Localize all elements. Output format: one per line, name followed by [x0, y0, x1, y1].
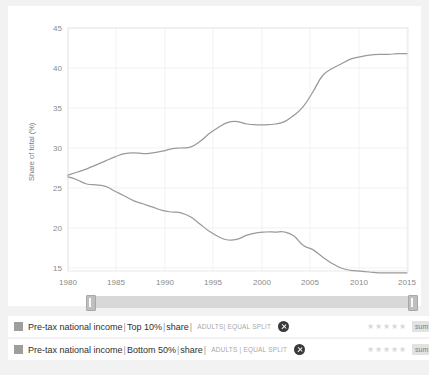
svg-text:1995: 1995 [204, 278, 222, 287]
plot-frame [68, 28, 408, 271]
legend-row[interactable]: Pre-tax national income|Bottom 50%|share… [8, 339, 429, 360]
svg-text:2000: 2000 [253, 278, 271, 287]
legend-label: Pre-tax national income|Bottom 50%|share… [28, 345, 207, 355]
svg-text:25: 25 [53, 184, 62, 193]
star-icon[interactable]: ★ [399, 323, 406, 331]
source-button[interactable]: sum [412, 321, 429, 332]
svg-text:1990: 1990 [156, 278, 174, 287]
star-icon[interactable]: ★ [391, 346, 398, 354]
star-icon[interactable]: ★ [375, 346, 382, 354]
legend-percentile: Bottom 50% [127, 345, 176, 355]
rating-stars[interactable]: ★ ★ ★ ★ ★ [367, 323, 406, 331]
slider-track[interactable] [86, 296, 416, 308]
slider-handle-start[interactable] [86, 295, 96, 311]
svg-text:1980: 1980 [59, 278, 77, 287]
legend-color-swatch [14, 322, 23, 331]
legend-row-actions: ★ ★ ★ ★ ★ sum [367, 339, 429, 360]
chart-app: 45 40 35 30 25 20 15 Share of total (%) … [0, 0, 429, 375]
svg-text:35: 35 [53, 104, 62, 113]
legend-separator: | [189, 322, 193, 332]
y-axis-title: Share of total (%) [27, 122, 36, 181]
legend-label: Pre-tax national income|Top 10%|share| [28, 322, 193, 332]
svg-text:40: 40 [53, 64, 62, 73]
legend-meta: ADULTS| EQUAL SPLIT [197, 323, 271, 330]
star-icon[interactable]: ★ [383, 346, 390, 354]
svg-text:45: 45 [53, 24, 62, 33]
legend-list: Pre-tax national income|Top 10%|share| A… [8, 316, 429, 362]
star-icon[interactable]: ★ [367, 323, 374, 331]
series-line-bottom50[interactable] [68, 177, 407, 273]
year-range-slider[interactable] [86, 295, 416, 309]
svg-text:30: 30 [53, 144, 62, 153]
legend-meta: ADULTS | EQUAL SPLIT [211, 346, 287, 353]
source-button[interactable]: sum [412, 344, 429, 355]
legend-measure: share [180, 345, 203, 355]
legend-color-swatch [14, 345, 23, 354]
svg-text:2005: 2005 [301, 278, 319, 287]
legend-measure: share [166, 322, 189, 332]
gridlines-horizontal [68, 28, 408, 268]
svg-text:1985: 1985 [107, 278, 125, 287]
line-chart-svg[interactable]: 45 40 35 30 25 20 15 Share of total (%) … [8, 6, 421, 306]
star-icon[interactable]: ★ [391, 323, 398, 331]
legend-separator: | [203, 345, 207, 355]
legend-indicator: Pre-tax national income [28, 322, 123, 332]
x-axis-ticks: 1980 1985 1990 1995 2000 2005 2010 2015 [59, 278, 416, 287]
svg-text:2010: 2010 [350, 278, 368, 287]
svg-text:2015: 2015 [398, 278, 416, 287]
slider-grip [89, 298, 91, 307]
series-line-top10[interactable] [68, 54, 407, 176]
slider-handle-end[interactable] [408, 295, 418, 311]
star-icon[interactable]: ★ [383, 323, 390, 331]
legend-percentile: Top 10% [127, 322, 162, 332]
legend-indicator: Pre-tax national income [28, 345, 123, 355]
close-icon[interactable] [294, 344, 305, 355]
star-icon[interactable]: ★ [367, 346, 374, 354]
svg-text:15: 15 [53, 264, 62, 273]
y-axis-ticks: 45 40 35 30 25 20 15 [53, 24, 62, 273]
close-icon[interactable] [278, 321, 289, 332]
gridlines-vertical [68, 28, 407, 271]
legend-row-actions: ★ ★ ★ ★ ★ sum [367, 316, 429, 337]
svg-text:20: 20 [53, 224, 62, 233]
star-icon[interactable]: ★ [399, 346, 406, 354]
star-icon[interactable]: ★ [375, 323, 382, 331]
slider-grip [411, 298, 413, 307]
legend-row[interactable]: Pre-tax national income|Top 10%|share| A… [8, 316, 429, 337]
chart-plot-area[interactable]: 45 40 35 30 25 20 15 Share of total (%) … [8, 6, 421, 306]
chart-card: 45 40 35 30 25 20 15 Share of total (%) … [8, 6, 421, 306]
rating-stars[interactable]: ★ ★ ★ ★ ★ [367, 346, 406, 354]
